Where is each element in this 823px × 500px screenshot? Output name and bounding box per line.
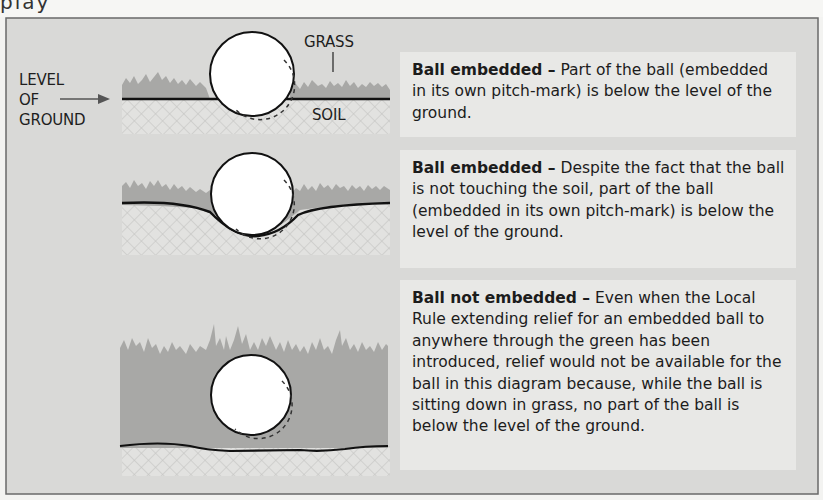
case-3-body: Even when the Local Rule extending relie… [412,289,781,435]
grass-label: GRASS [304,33,354,52]
case-1-description: Ball embedded – Part of the ball (embedd… [400,52,796,137]
level-of-ground-label: LEVEL OF GROUND [19,70,85,130]
case-2-description: Ball embedded – Despite the fact that th… [400,150,796,268]
golf-ball [211,355,291,435]
label-line-level: LEVEL [19,70,85,90]
case-1-title: Ball embedded – [412,61,556,79]
case-3-title: Ball not embedded – [412,289,590,307]
golf-ball [210,32,294,116]
soil-label: SOIL [312,106,345,125]
case-2-title: Ball embedded – [412,159,556,177]
label-line-ground: GROUND [19,110,85,130]
golf-ball [211,153,293,235]
case-3-description: Ball not embedded – Even when the Local … [400,280,796,470]
label-line-of: OF [19,90,85,110]
